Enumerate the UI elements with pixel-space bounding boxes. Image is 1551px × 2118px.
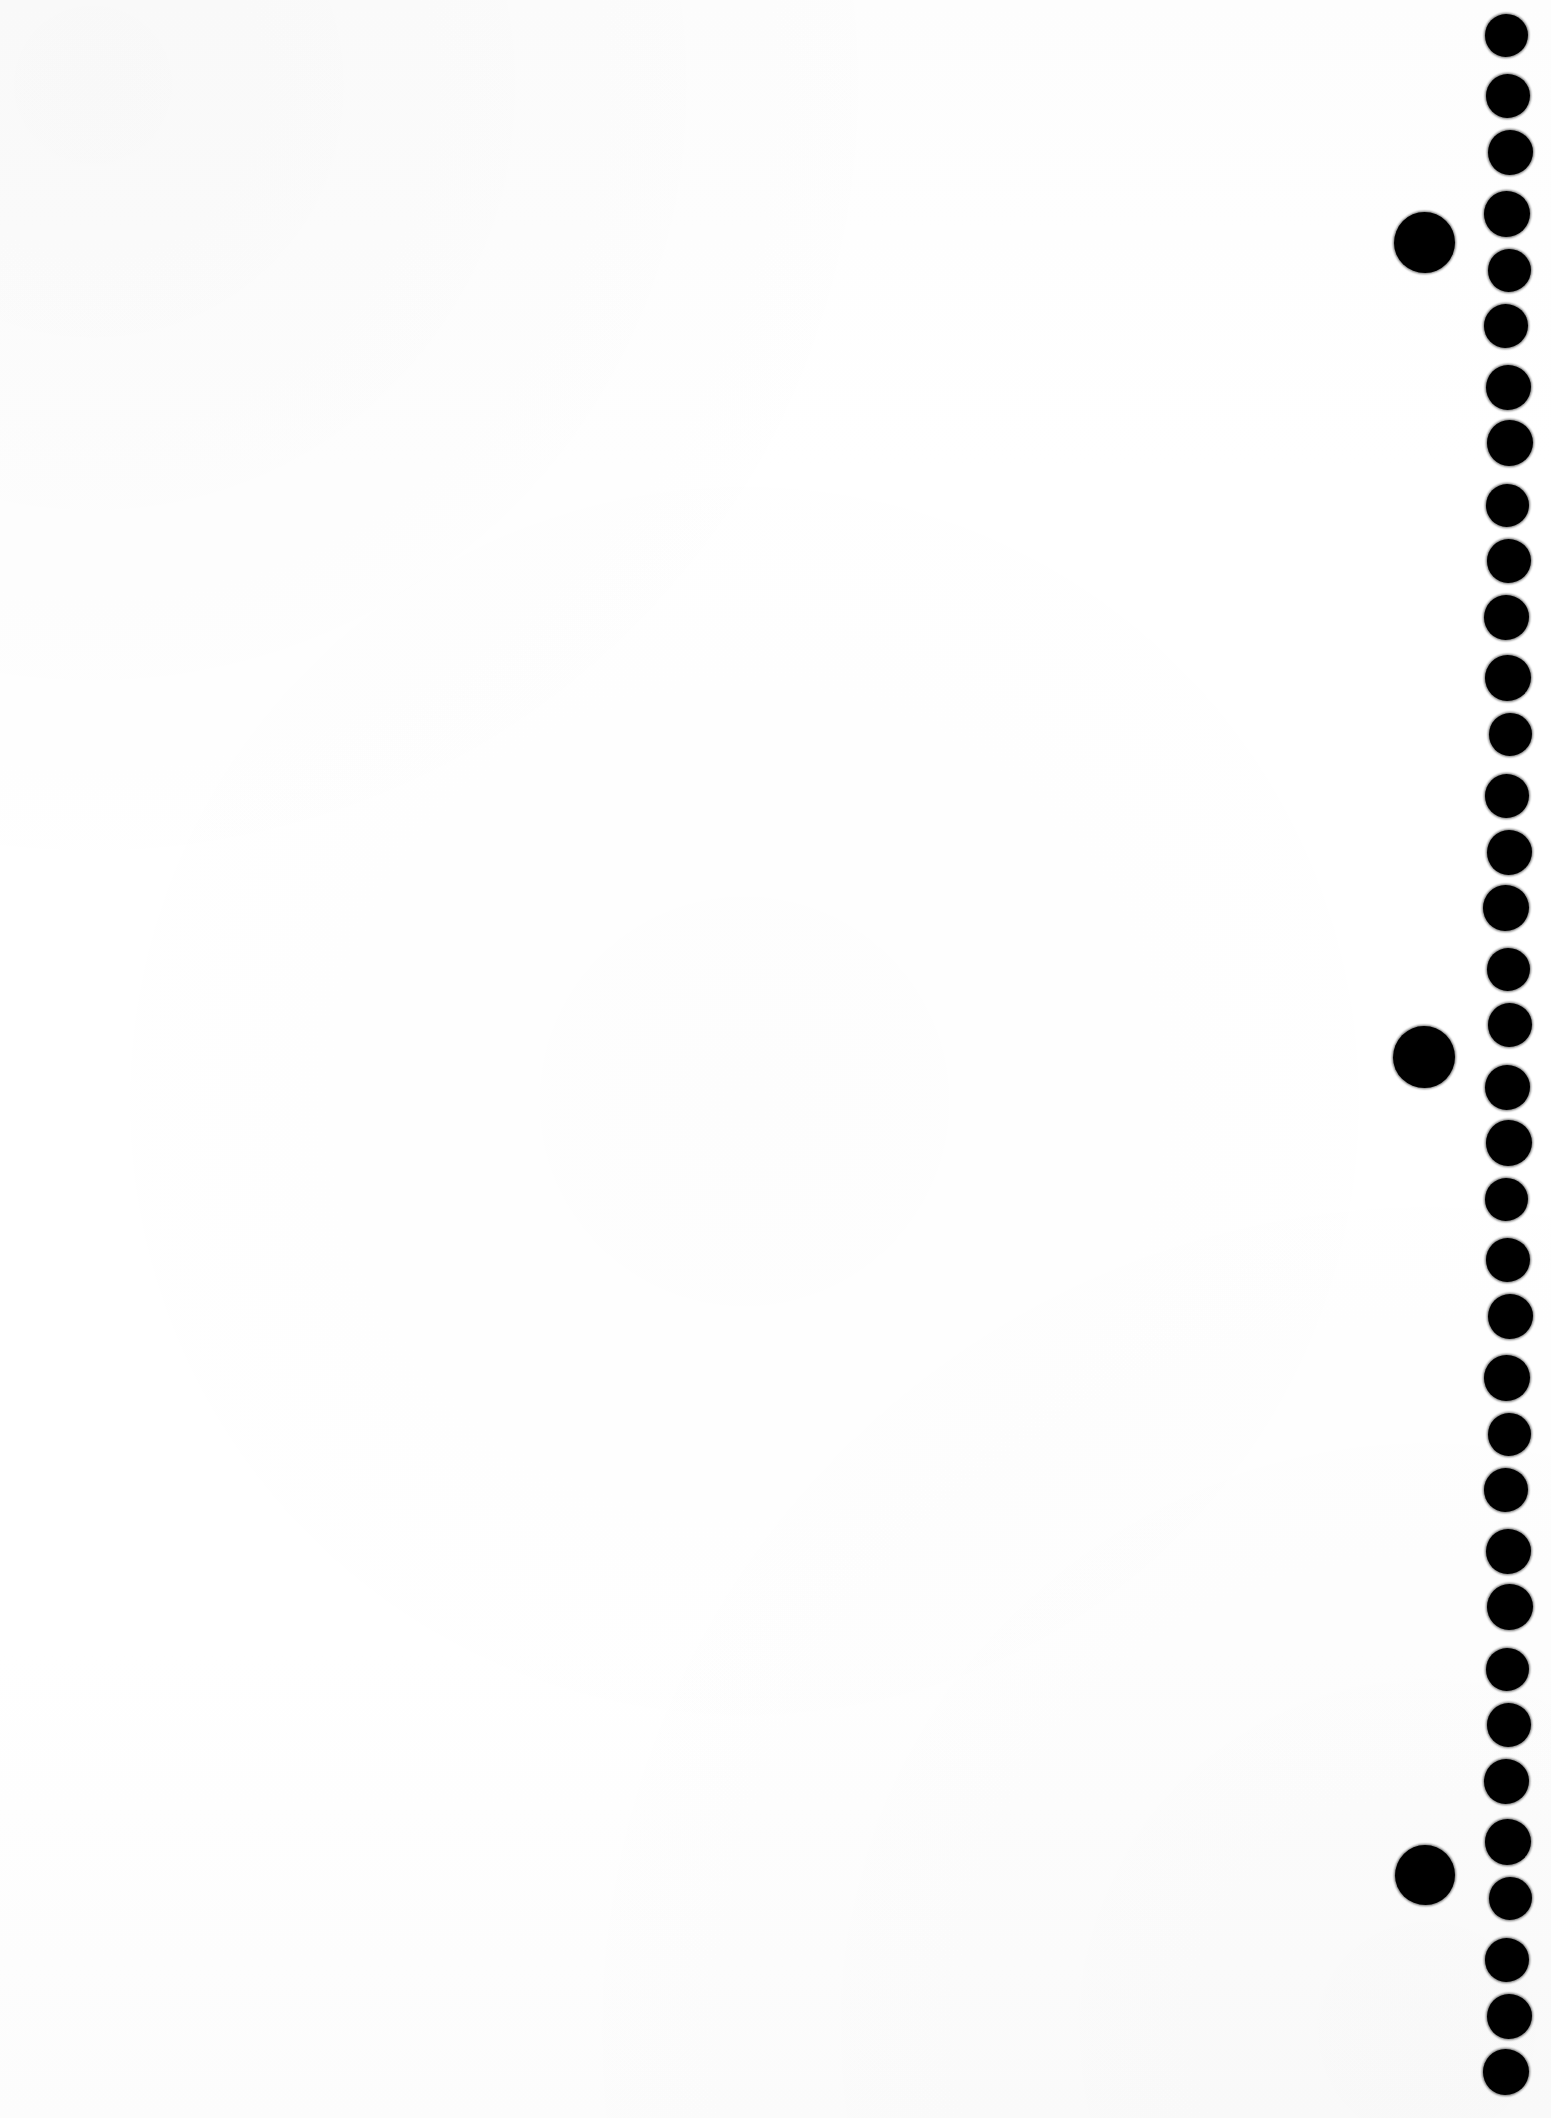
registration-dot (1485, 655, 1531, 701)
registration-dot (1487, 1994, 1532, 2039)
registration-dot (1484, 595, 1529, 640)
registration-dot (1487, 1703, 1531, 1747)
registration-dot (1488, 249, 1531, 292)
registration-dot (1486, 484, 1529, 527)
registration-dot (1486, 1648, 1529, 1691)
registration-dot (1483, 885, 1529, 931)
registration-dot (1485, 774, 1529, 818)
registration-dot (1487, 420, 1533, 466)
scanned-page (0, 0, 1551, 2118)
registration-dot (1485, 1178, 1528, 1221)
registration-dot (1485, 1819, 1531, 1865)
registration-dot (1488, 1003, 1532, 1047)
large-marker-dot (1395, 1845, 1455, 1905)
registration-dot (1483, 2049, 1529, 2095)
registration-dot (1489, 1877, 1532, 1920)
registration-dot (1489, 713, 1532, 756)
registration-dot (1485, 1938, 1529, 1982)
registration-dot (1484, 1468, 1528, 1512)
registration-dot (1487, 948, 1530, 991)
registration-dot (1484, 304, 1528, 348)
registration-dot (1488, 1413, 1531, 1456)
registration-dot (1485, 14, 1528, 57)
registration-dot (1487, 1584, 1533, 1630)
registration-dot (1486, 1238, 1530, 1282)
blank-page-area (0, 0, 1380, 2118)
large-marker-dot (1394, 212, 1455, 273)
registration-dot (1486, 74, 1530, 118)
registration-dot (1487, 539, 1531, 583)
registration-dot (1486, 1529, 1531, 1574)
registration-dot (1484, 191, 1530, 237)
registration-dot (1485, 1065, 1530, 1110)
registration-dot (1487, 830, 1532, 875)
registration-dot (1486, 1120, 1532, 1166)
registration-dot (1486, 365, 1531, 410)
registration-dot (1488, 1294, 1533, 1339)
large-marker-dot (1393, 1026, 1455, 1088)
registration-dot (1488, 130, 1533, 175)
registration-dot (1484, 1355, 1530, 1401)
registration-dot (1484, 1759, 1529, 1804)
